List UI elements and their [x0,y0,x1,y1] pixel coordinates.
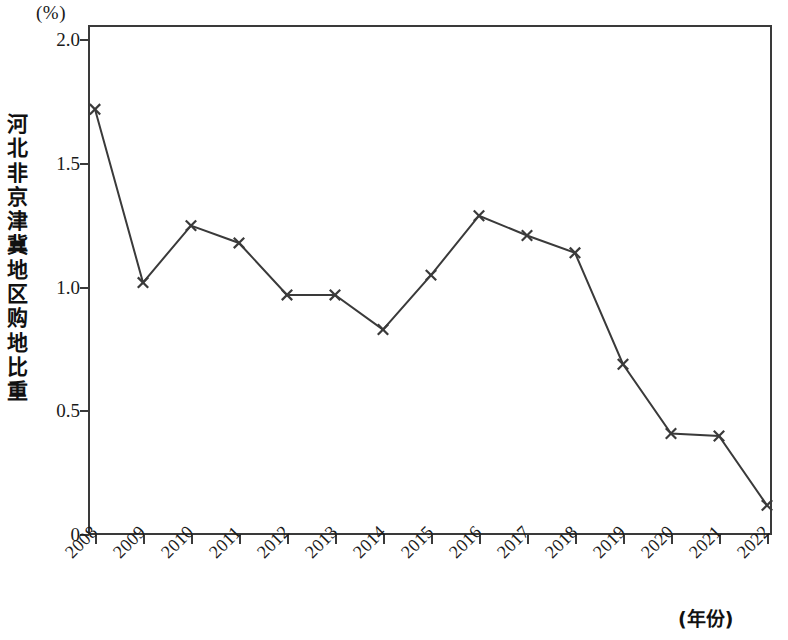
plot-area [88,25,772,535]
chart-page: (%) 河北非京津冀地区购地比重 2.01.51.00.50 (年份) 2008… [0,0,788,640]
y-tick-label: 1.5 [34,153,80,175]
y-tick-mark [80,287,89,289]
y-tick-label: 0.5 [34,400,80,422]
y-tick-label: 2.0 [34,29,80,51]
y-tick-mark [80,410,89,412]
x-axis-unit-label: (年份) [678,604,733,631]
y-tick-mark [80,163,89,165]
y-tick-mark [80,39,89,41]
y-tick-label: 1.0 [34,277,80,299]
